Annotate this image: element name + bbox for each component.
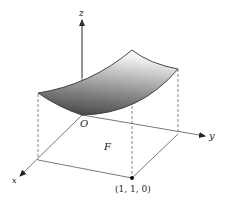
region-label: F bbox=[103, 141, 112, 152]
y-axis bbox=[82, 115, 205, 136]
origin-label: O bbox=[80, 118, 88, 129]
point-label: (1, 1, 0) bbox=[115, 184, 151, 194]
z-axis-label: z bbox=[78, 8, 84, 18]
surface bbox=[38, 50, 178, 115]
y-axis-label: y bbox=[208, 130, 215, 141]
surface-diagram: z y x O F (1, 1, 0) bbox=[0, 0, 226, 204]
x-axis-label: x bbox=[12, 176, 17, 185]
point-marker bbox=[130, 176, 134, 180]
